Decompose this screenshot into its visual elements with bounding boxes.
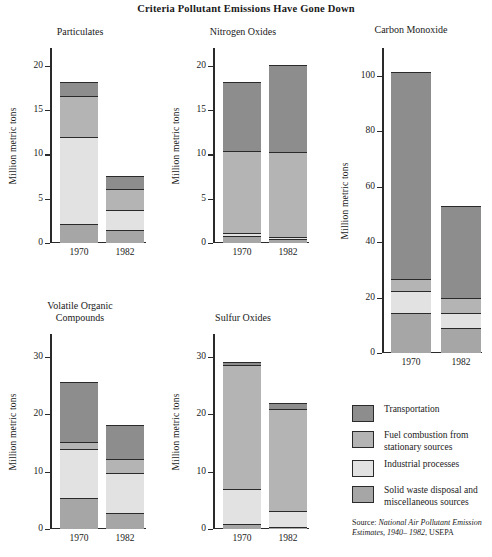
y-tick (45, 472, 50, 473)
y-tick-label: 10 (197, 467, 207, 477)
y-axis-label: Million metric tons (171, 107, 181, 184)
y-tick-label: 0 (370, 348, 375, 358)
y-tick-label: 20 (197, 61, 207, 71)
y-tick-label: 0 (201, 524, 206, 534)
plot-area: 0510152019701982 (213, 48, 309, 243)
y-tick-label: 20 (34, 410, 44, 420)
bar-segment (223, 365, 261, 490)
bar-segment (106, 459, 144, 474)
stacked-bar (106, 426, 144, 529)
y-tick (377, 242, 382, 243)
bar-segment (269, 511, 307, 528)
legend-item: Transportation (352, 404, 492, 424)
y-axis-label: Million metric tons (8, 393, 18, 470)
bar-segment (391, 72, 431, 280)
bar-segment (269, 409, 307, 512)
y-axis (382, 48, 384, 353)
y-tick-label: 100 (361, 71, 375, 81)
bar-segment (60, 137, 98, 226)
chart-panel-particulates: Particulates0510152019701982Million metr… (0, 26, 160, 276)
legend-label: Fuel combustion from stationary sources (384, 430, 492, 453)
y-tick (377, 353, 382, 354)
x-tick-label: 1982 (116, 247, 135, 257)
y-tick (208, 243, 213, 244)
y-tick (377, 187, 382, 188)
x-tick-label: 1970 (233, 533, 252, 543)
legend-swatch (352, 405, 374, 422)
figure-title: Criteria Pollutant Emissions Have Gone D… (0, 3, 492, 14)
chart-title: Volatile Organic Compounds (0, 300, 160, 324)
stacked-bar (391, 73, 431, 353)
y-tick (208, 529, 213, 530)
y-tick-label: 20 (366, 293, 376, 303)
source-suffix: , USEPA (425, 528, 454, 537)
legend-label: Solid waste disposal and miscellaneous s… (384, 485, 492, 508)
legend: TransportationFuel combustion from stati… (352, 404, 492, 514)
y-tick-label: 20 (197, 410, 207, 420)
y-tick (208, 199, 213, 200)
x-tick-label: 1982 (116, 533, 135, 543)
legend-item: Fuel combustion from stationary sources (352, 430, 492, 453)
x-tick-label: 1970 (70, 247, 89, 257)
y-tick-label: 60 (366, 182, 376, 192)
bar-segment (60, 442, 98, 450)
y-tick (208, 66, 213, 67)
chart-panel-carbon-monoxide: Carbon Monoxide02040608010019701982Milli… (330, 20, 492, 380)
y-tick-label: 10 (34, 150, 44, 160)
x-tick-label: 1982 (279, 247, 298, 257)
stacked-bar (269, 404, 307, 529)
bar-segment (60, 498, 98, 529)
y-tick (45, 110, 50, 111)
x-tick-label: 1970 (70, 533, 89, 543)
y-axis (213, 48, 215, 243)
stacked-bar (60, 383, 98, 529)
bar-segment (391, 313, 431, 353)
legend-label: Industrial processes (384, 459, 492, 471)
y-tick-label: 15 (197, 105, 207, 115)
y-tick-label: 10 (197, 150, 207, 160)
y-tick-label: 20 (34, 61, 44, 71)
chart-panel-nitrogen-oxides: Nitrogen Oxides0510152019701982Million m… (163, 26, 323, 276)
bar-segment (60, 96, 98, 138)
legend-label: Transportation (384, 404, 492, 416)
chart-panel-volatile-organic-compounds: Volatile Organic Compounds01020301970198… (0, 300, 160, 550)
y-tick (45, 154, 50, 155)
bar-segment (60, 449, 98, 499)
stacked-bar (106, 177, 144, 243)
bar-segment (269, 65, 307, 153)
y-tick (377, 76, 382, 77)
x-tick-label: 1982 (279, 533, 298, 543)
bar-segment (106, 425, 144, 460)
bar-segment (106, 230, 144, 243)
y-tick-label: 40 (366, 237, 376, 247)
source-prefix: Source: (352, 518, 378, 527)
y-tick-label: 0 (201, 238, 206, 248)
y-tick-label: 5 (201, 194, 206, 204)
y-tick-label: 5 (38, 194, 43, 204)
stacked-bar (223, 83, 261, 243)
y-tick-label: 80 (366, 126, 376, 136)
bar-segment (106, 210, 144, 231)
legend-swatch (352, 460, 374, 477)
bar-segment (269, 403, 307, 410)
y-tick-label: 30 (34, 352, 44, 362)
stacked-bar (223, 363, 261, 529)
y-tick-label: 15 (34, 105, 44, 115)
y-tick (45, 66, 50, 67)
y-axis-label: Million metric tons (340, 162, 350, 239)
y-tick-label: 0 (38, 238, 43, 248)
plot-area: 010203019701982 (50, 334, 146, 529)
y-tick-label: 10 (34, 467, 44, 477)
bar-segment (60, 224, 98, 243)
y-tick (45, 199, 50, 200)
chart-title: Sulfur Oxides (163, 312, 323, 324)
source-note: Source: National Air Pollutant Emission … (352, 518, 492, 538)
bar-segment (106, 473, 144, 514)
bar-segment (223, 489, 261, 525)
bar-segment (269, 152, 307, 238)
y-axis (50, 48, 52, 243)
y-axis-label: Million metric tons (171, 393, 181, 470)
y-tick (45, 243, 50, 244)
plot-area: 0510152019701982 (50, 48, 146, 243)
x-tick-label: 1970 (233, 247, 252, 257)
